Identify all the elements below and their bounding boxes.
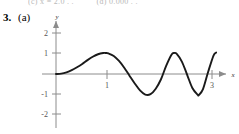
x-tick-label-3: 3 bbox=[210, 81, 214, 90]
axes bbox=[42, 21, 226, 128]
x-axis-label: x bbox=[230, 71, 235, 79]
y-axis-arrowhead bbox=[53, 21, 59, 28]
y-tick-label-2: 2 bbox=[44, 29, 48, 38]
x-axis-arrowhead bbox=[219, 71, 226, 77]
y-tick-label-minus-2: -2 bbox=[41, 110, 48, 119]
y-tick-label-minus-1: -1 bbox=[41, 90, 48, 99]
graph-figure: 2 1 -1 -2 1 3 y x bbox=[0, 0, 239, 134]
y-tick-label-1: 1 bbox=[44, 49, 48, 58]
x-tick-label-1: 1 bbox=[105, 81, 109, 90]
y-axis-label: y bbox=[54, 13, 59, 21]
